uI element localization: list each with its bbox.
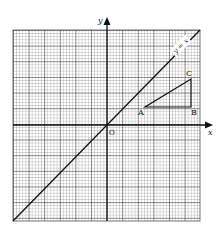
x-axis-label: x	[208, 128, 213, 137]
point-a-label: A	[137, 108, 144, 117]
point-c-label: C	[186, 69, 192, 78]
origin-label: O	[109, 129, 115, 137]
y-axis-label: y	[97, 16, 103, 25]
y-axis-arrow-icon	[104, 17, 111, 25]
point-b-label: B	[191, 108, 197, 117]
coordinate-graph: x y O y = x A B C	[0, 0, 223, 236]
